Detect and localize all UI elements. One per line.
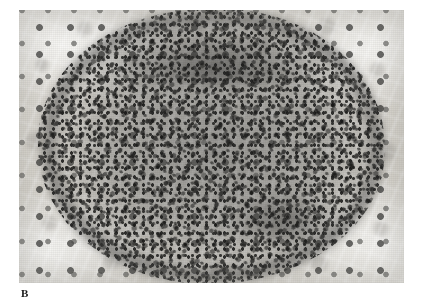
figure-panel: B — [0, 0, 421, 304]
aggregate-inferior-dark-patch — [231, 190, 354, 261]
micrograph-image — [19, 10, 404, 283]
aggregate-superior-dark-band — [73, 10, 358, 84]
figure-panel-label: B — [21, 286, 28, 300]
